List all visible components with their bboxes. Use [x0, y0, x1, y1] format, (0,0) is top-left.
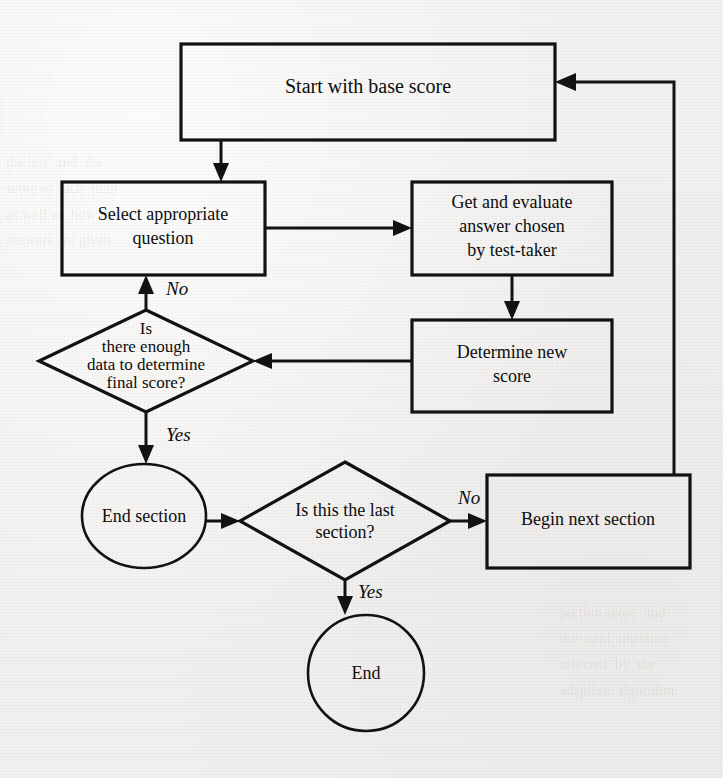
- edge-label-no-retry-question: No: [165, 278, 188, 299]
- edge-select-to-get: [265, 220, 412, 236]
- node-label-enough-data-line1: Is: [140, 319, 152, 338]
- node-label-start-score: Start with base score: [285, 75, 451, 97]
- edge-label-yes-end-section: Yes: [166, 424, 191, 445]
- node-decision-last-section[interactable]: Is this the last section?: [240, 462, 450, 580]
- edge-label-yes-finished: Yes: [358, 581, 383, 602]
- edge-enough-yes-to-endsection: [138, 412, 154, 464]
- edge-get-to-determine: [504, 275, 520, 320]
- edge-lastsection-no-to-begin: [450, 513, 487, 529]
- node-begin-next-section[interactable]: Begin next section: [487, 475, 690, 568]
- node-label-end-section: End section: [102, 506, 186, 526]
- node-label-get-answer-line3: by test-taker: [467, 240, 556, 260]
- edge-determine-to-enough: [253, 353, 412, 369]
- scanned-flowchart-page: the test and the score of each item as w…: [0, 0, 723, 778]
- node-label-select-question-line1: Select appropriate: [98, 204, 228, 224]
- node-decision-enough-data[interactable]: Is there enough data to determine final …: [39, 310, 253, 412]
- node-label-determine-score-line2: score: [493, 366, 531, 386]
- node-label-last-section-line2: section?: [316, 522, 375, 542]
- node-label-enough-data-line3: data to determine: [87, 355, 205, 374]
- node-label-last-section-line1: Is this the last: [295, 500, 395, 520]
- node-label-begin-next-section: Begin next section: [521, 509, 655, 529]
- edge-label-no-more-sections: No: [457, 487, 480, 508]
- node-end-section[interactable]: End section: [82, 464, 206, 568]
- node-get-and-evaluate-answer[interactable]: Get and evaluate answer chosen by test-t…: [412, 182, 612, 275]
- node-start-with-base-score[interactable]: Start with base score: [181, 44, 555, 140]
- edge-lastsection-yes-to-end: [337, 580, 353, 615]
- edge-start-to-select: [213, 140, 229, 182]
- node-label-end: End: [352, 663, 381, 683]
- flowchart-canvas: Start with base score Select appropriate…: [0, 0, 723, 778]
- node-label-determine-score-line1: Determine new: [457, 342, 567, 362]
- node-select-appropriate-question[interactable]: Select appropriate question: [62, 182, 265, 275]
- edge-endsection-to-lastsection: [206, 513, 240, 529]
- edge-enough-no-to-select: [138, 275, 154, 310]
- node-label-get-answer-line2: answer chosen: [459, 216, 564, 236]
- node-label-enough-data-line2: there enough: [102, 337, 191, 356]
- node-label-select-question-line2: question: [133, 228, 194, 248]
- node-determine-new-score[interactable]: Determine new score: [412, 320, 612, 412]
- node-label-get-answer-line1: Get and evaluate: [452, 192, 573, 212]
- node-label-enough-data-line4: final score?: [107, 373, 186, 392]
- node-end[interactable]: End: [308, 615, 424, 731]
